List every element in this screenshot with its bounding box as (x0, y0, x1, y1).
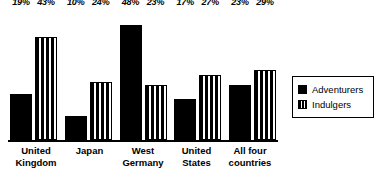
legend-label-indulgers: Indulgers (312, 99, 351, 110)
category-label-japan: Japan (64, 145, 116, 168)
bar-wrap-adventurers-united-kingdom: 19% (10, 8, 32, 140)
bar-value-label: 17% (177, 0, 194, 7)
bar-group-all-four-countries: 23% 29% (229, 8, 276, 140)
plot-area: 19% 43% 10% 24% (8, 8, 278, 142)
bar-value-label: 24% (92, 0, 109, 7)
bar-wrap-adventurers-japan: 10% (65, 8, 87, 140)
chart-legend: Adventurers Indulgers (292, 76, 374, 118)
bar-indulgers-west-germany (145, 85, 167, 140)
bar-adventurers-united-kingdom (10, 94, 32, 140)
bar-wrap-indulgers-west-germany: 23% (145, 8, 167, 140)
bar-indulgers-united-states (199, 75, 221, 140)
bar-group-japan: 10% 24% (65, 8, 112, 140)
bar-chart: 19% 43% 10% 24% (0, 0, 382, 190)
bar-value-label: 29% (256, 0, 273, 7)
bar-group-united-kingdom: 19% 43% (10, 8, 57, 140)
category-label-united-kingdom: United Kingdom (10, 145, 62, 168)
bar-wrap-adventurers-united-states: 17% (174, 8, 196, 140)
bar-indulgers-japan (90, 82, 112, 140)
bar-wrap-indulgers-united-kingdom: 43% (35, 8, 57, 140)
bar-wrap-indulgers-all-four-countries: 29% (254, 8, 276, 140)
bar-adventurers-japan (65, 116, 87, 140)
category-label-west-germany: West Germany (117, 145, 169, 168)
bar-wrap-indulgers-united-states: 27% (199, 8, 221, 140)
bar-group-west-germany: 48% 23% (120, 8, 167, 140)
bar-value-label: 43% (37, 0, 54, 7)
legend-item-adventurers: Adventurers (298, 82, 368, 97)
legend-swatch-indulgers-icon (298, 100, 307, 109)
legend-swatch-adventurers-icon (298, 85, 307, 94)
bar-adventurers-united-states (174, 99, 196, 140)
bar-wrap-adventurers-all-four-countries: 23% (229, 8, 251, 140)
bar-value-label: 10% (67, 0, 84, 7)
bar-indulgers-all-four-countries (254, 70, 276, 140)
legend-item-indulgers: Indulgers (298, 97, 368, 112)
bar-value-label: 23% (231, 0, 248, 7)
bar-groups: 19% 43% 10% 24% (8, 8, 278, 140)
bar-value-label: 19% (12, 0, 29, 7)
bar-group-united-states: 17% 27% (174, 8, 221, 140)
bar-wrap-indulgers-japan: 24% (90, 8, 112, 140)
bar-wrap-adventurers-west-germany: 48% (120, 8, 142, 140)
bar-value-label: 23% (147, 0, 164, 7)
bar-value-label: 48% (122, 0, 139, 7)
bar-indulgers-united-kingdom (35, 37, 57, 140)
category-label-all-four-countries: All four countries (224, 145, 276, 168)
bar-adventurers-all-four-countries (229, 85, 251, 140)
legend-label-adventurers: Adventurers (312, 84, 363, 95)
bar-adventurers-west-germany (120, 25, 142, 140)
bar-value-label: 27% (202, 0, 219, 7)
axis-baseline (8, 140, 278, 142)
category-axis-labels: United Kingdom Japan West Germany United… (8, 145, 278, 168)
category-label-united-states: United States (171, 145, 223, 168)
